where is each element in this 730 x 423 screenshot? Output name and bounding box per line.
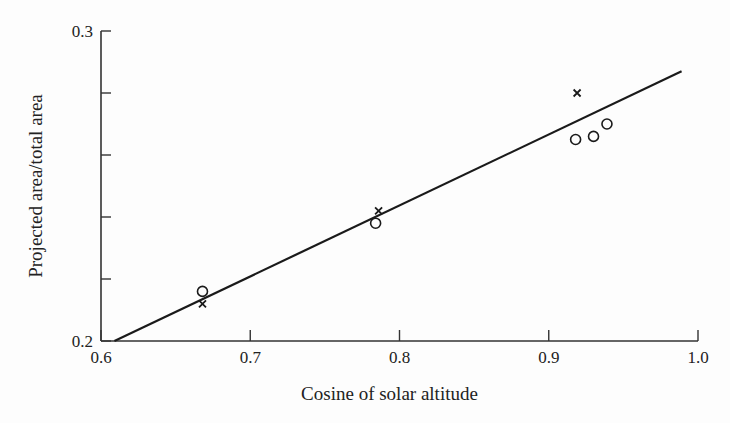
cross-marker	[574, 90, 581, 97]
circle-marker	[589, 131, 599, 141]
x-tick-label: 0.8	[389, 348, 410, 367]
x-tick-label: 0.7	[240, 348, 262, 367]
y-axis-title: Projected area/total area	[25, 94, 46, 278]
fit-line	[114, 71, 681, 341]
x-axis-title: Cosine of solar altitude	[301, 383, 478, 404]
circle-marker	[571, 135, 581, 145]
circle-marker	[371, 218, 381, 228]
y-tick-label: 0.3	[72, 22, 93, 41]
scatter-chart: 0.20.30.60.70.80.91.0Cosine of solar alt…	[0, 0, 730, 423]
x-tick-label: 0.9	[538, 348, 559, 367]
x-tick-label: 0.6	[90, 348, 111, 367]
circle-marker	[197, 286, 207, 296]
circle-marker	[602, 119, 612, 129]
x-tick-label: 1.0	[687, 348, 708, 367]
